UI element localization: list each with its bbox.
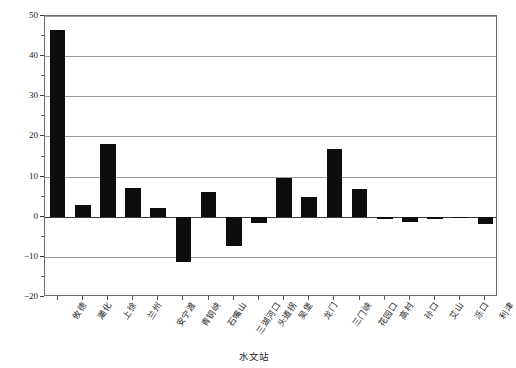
bar bbox=[352, 189, 368, 217]
x-tick-label: 高村 bbox=[398, 301, 416, 321]
x-tick-mark bbox=[107, 296, 108, 300]
x-tick-mark bbox=[208, 296, 209, 300]
x-tick-label: 上徐 bbox=[121, 301, 139, 321]
x-tick-mark bbox=[157, 296, 158, 300]
y-tick-label-10: 10 bbox=[0, 171, 44, 181]
x-tick-label: 三门峡 bbox=[351, 301, 374, 328]
bar bbox=[100, 144, 116, 217]
x-tick-mark bbox=[434, 296, 435, 300]
x-tick-mark bbox=[57, 296, 58, 300]
x-axis-labels: 攸德潮化上徐兰州安宁渡青铜峡石嘴山三湖河口头道拐吴堡龙门三门峡花园口高村孙口艾山… bbox=[0, 301, 508, 349]
plot-area bbox=[44, 15, 497, 296]
bar bbox=[276, 178, 292, 217]
bar bbox=[50, 30, 66, 217]
bar bbox=[327, 149, 343, 216]
gridline-20 bbox=[45, 136, 496, 137]
y-tick-label-0: 0 bbox=[0, 211, 44, 221]
x-tick-label: 吴堡 bbox=[297, 301, 315, 321]
bar bbox=[377, 217, 393, 219]
bar bbox=[125, 188, 141, 217]
bar bbox=[478, 217, 494, 224]
x-tick-mark bbox=[359, 296, 360, 300]
y-axis-title-text: 径流量比例/% bbox=[0, 96, 1, 216]
x-tick-mark bbox=[308, 296, 309, 300]
x-tick-mark bbox=[283, 296, 284, 300]
x-tick-mark bbox=[132, 296, 133, 300]
bar bbox=[402, 217, 418, 223]
x-tick-label: 孙口 bbox=[423, 301, 441, 321]
x-tick-mark bbox=[409, 296, 410, 300]
gridline-40 bbox=[45, 56, 496, 57]
x-tick-label: 兰州 bbox=[146, 301, 164, 321]
bar bbox=[251, 217, 267, 223]
x-tick-mark bbox=[82, 296, 83, 300]
bar bbox=[150, 208, 166, 216]
y-axis-title: 径流量比例/% bbox=[0, 0, 12, 96]
bar bbox=[301, 197, 317, 216]
x-tick-mark bbox=[459, 296, 460, 300]
bar bbox=[201, 192, 217, 216]
bar bbox=[226, 217, 242, 246]
bar bbox=[176, 217, 192, 262]
x-tick-mark bbox=[333, 296, 334, 300]
bar bbox=[452, 217, 468, 218]
x-tick-label: 攸德 bbox=[71, 301, 89, 321]
x-tick-mark bbox=[384, 296, 385, 300]
x-tick-mark bbox=[182, 296, 183, 300]
x-tick-label: 花园口 bbox=[376, 301, 399, 328]
x-tick-label: 青铜峡 bbox=[200, 301, 223, 328]
bar bbox=[75, 205, 91, 217]
x-tick-label: 泺口 bbox=[473, 301, 491, 321]
gridline--10 bbox=[45, 257, 496, 258]
x-tick-label: 龙门 bbox=[322, 301, 340, 321]
x-tick-mark bbox=[233, 296, 234, 300]
x-tick-label: 石嘴山 bbox=[225, 301, 248, 328]
y-tick-label-20: 20 bbox=[0, 130, 44, 140]
gridline-50 bbox=[45, 16, 496, 17]
x-tick-mark bbox=[484, 296, 485, 300]
gridline-30 bbox=[45, 96, 496, 97]
x-tick-label: 艾山 bbox=[448, 301, 466, 321]
x-tick-label: 潮化 bbox=[96, 301, 114, 321]
x-axis-title: 水文站 bbox=[0, 349, 508, 363]
x-tick-label: 利津 bbox=[498, 301, 516, 321]
bar bbox=[427, 217, 443, 219]
y-tick-label--10: −10 bbox=[0, 251, 44, 261]
x-tick-mark bbox=[258, 296, 259, 300]
x-tick-label: 安宁渡 bbox=[175, 301, 198, 328]
